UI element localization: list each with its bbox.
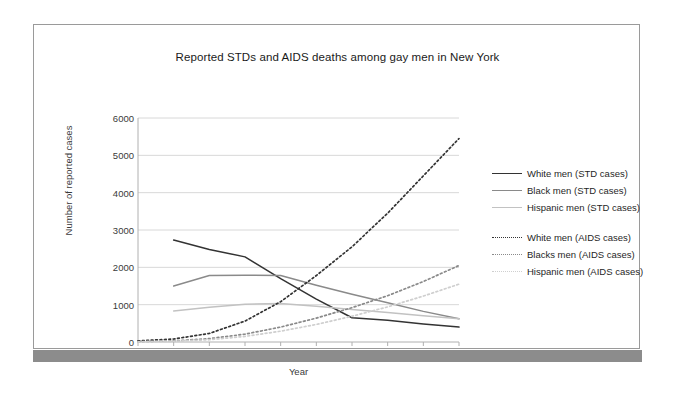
chart-canvas <box>138 118 459 342</box>
x-axis-title: Year <box>138 366 459 377</box>
series-line <box>138 265 459 341</box>
y-axis-tick-label: 0 <box>92 337 134 348</box>
series-line <box>174 304 459 319</box>
legend-item[interactable]: White men (AIDS cases) <box>492 229 642 246</box>
y-axis-tick-label: 5000 <box>92 150 134 161</box>
legend-swatch-icon <box>492 173 522 174</box>
legend-swatch-icon <box>492 254 522 255</box>
y-axis-title: Number of reported cases <box>63 111 74 251</box>
legend-swatch-icon <box>492 207 522 208</box>
page-footer-band <box>33 350 642 362</box>
plot-area <box>138 118 459 342</box>
legend-swatch-icon <box>492 271 522 272</box>
y-axis-tick-label: 4000 <box>92 187 134 198</box>
legend-item-label: White men (STD cases) <box>527 168 628 179</box>
legend-item[interactable]: Blacks men (AIDS cases) <box>492 246 642 263</box>
document-page: Reported STDs and AIDS deaths among gay … <box>33 24 640 349</box>
y-axis-tick-label: 2000 <box>92 262 134 273</box>
legend-item-label: Blacks men (AIDS cases) <box>527 249 635 260</box>
y-axis-tick-label: 1000 <box>92 299 134 310</box>
series-line <box>138 284 459 342</box>
legend-item-label: Black men (STD cases) <box>527 185 627 196</box>
legend-item-label: Hispanic men (STD cases) <box>527 202 640 213</box>
legend-item-label: Hispanic men (AIDS cases) <box>527 266 643 277</box>
screenshot-root: Reported STDs and AIDS deaths among gay … <box>0 0 674 402</box>
y-axis-tick-label: 3000 <box>92 225 134 236</box>
series-line <box>138 139 459 341</box>
legend-swatch-icon <box>492 190 522 191</box>
legend-item[interactable]: Hispanic men (AIDS cases) <box>492 263 642 280</box>
legend-item[interactable]: Hispanic men (STD cases) <box>492 199 642 216</box>
legend-item-label: White men (AIDS cases) <box>527 232 631 243</box>
legend-group: White men (STD cases)Black men (STD case… <box>492 165 642 216</box>
y-axis-tick-label: 6000 <box>92 113 134 124</box>
y-axis-tick-labels: 0100020003000400050006000 <box>90 118 134 342</box>
chart-title: Reported STDs and AIDS deaths among gay … <box>34 51 641 63</box>
legend-item[interactable]: Black men (STD cases) <box>492 182 642 199</box>
legend-item[interactable]: White men (STD cases) <box>492 165 642 182</box>
legend-group: White men (AIDS cases)Blacks men (AIDS c… <box>492 229 642 280</box>
chart-legend: White men (STD cases)Black men (STD case… <box>492 165 642 293</box>
legend-swatch-icon <box>492 237 522 238</box>
series-line <box>174 275 459 319</box>
